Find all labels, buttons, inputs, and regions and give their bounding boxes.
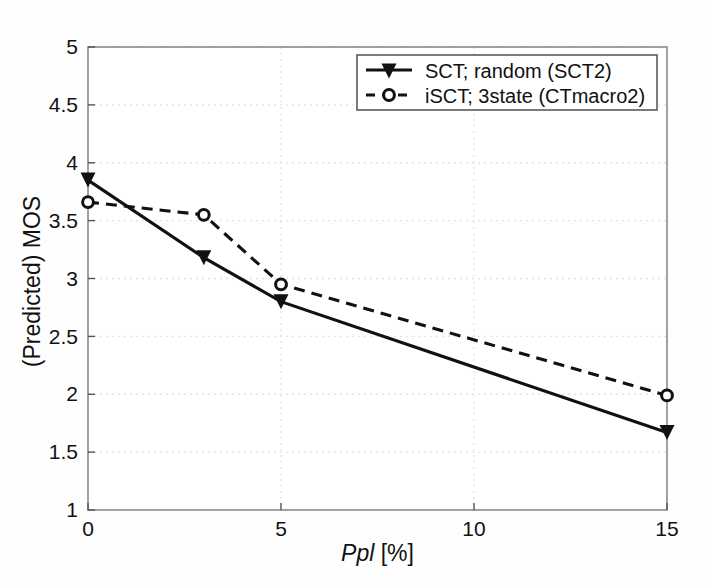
y-axis-title-wrapper: (Predicted) MOS <box>0 0 40 586</box>
x-axis-title: Ppl [%] <box>88 540 667 567</box>
y-tick-label-5: 5 <box>40 35 78 59</box>
y-tick-label-2: 2 <box>40 382 78 406</box>
y-tick-label-3: 3 <box>40 267 78 291</box>
x-tick-label-10: 10 <box>450 517 498 541</box>
y-tick-label-4: 4 <box>40 151 78 175</box>
y-axis-title: (Predicted) MOS <box>19 132 46 432</box>
x-axis-title-symbol: Ppl <box>341 540 374 566</box>
chart-figure: 5 4.5 4 3.5 3 2.5 2 1.5 1 0 5 10 15 (Pre… <box>0 0 705 586</box>
legend-label-isct-3state: iSCT; 3state (CTmacro2) <box>425 85 645 108</box>
x-tick-label-0: 0 <box>64 517 112 541</box>
x-axis-title-unit: [%] <box>374 540 414 566</box>
x-tick-label-15: 15 <box>643 517 691 541</box>
legend-label-sct-random: SCT; random (SCT2) <box>425 60 612 83</box>
x-tick-label-5: 5 <box>257 517 305 541</box>
